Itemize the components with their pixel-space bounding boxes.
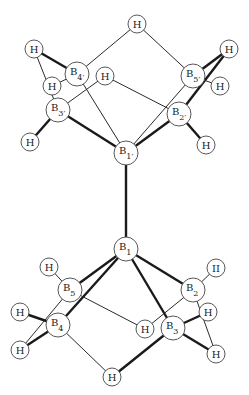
atom-label: H [212, 349, 221, 360]
atoms-layer: B1′B2′B3′B4′B5′HHHHHHHHB1B2B3B4B5HIIHHHH… [11, 15, 238, 386]
atom-Hr: H [199, 303, 217, 321]
atom-Hll: H [11, 341, 29, 359]
atom-Hrb: H [197, 136, 215, 154]
bond-B4p-B1p [77, 74, 126, 153]
atom-B3: B3 [161, 316, 185, 340]
atom-label: H [26, 137, 35, 148]
atom-Hb5: H [211, 77, 229, 95]
atom-B2p: B2′ [167, 102, 191, 126]
atom-Hul: H [40, 258, 58, 276]
atom-label: II [212, 263, 220, 274]
boron-hydride-structure-diagram: B1′B2′B3′B4′B5′HHHHHHHHB1B2B3B4B5HIIHHHH… [0, 0, 249, 395]
atom-Hb4: H [43, 77, 61, 95]
bond-Hc-B2p [105, 76, 179, 114]
atom-label: H [225, 44, 234, 55]
atom-label: H [45, 262, 54, 273]
atom-B3p: B3′ [46, 98, 70, 122]
atom-Hc: H [96, 67, 114, 85]
atom-Hlr: H [207, 345, 225, 363]
atom-B4p: B4′ [65, 62, 89, 86]
atom-B5: B5 [58, 278, 82, 302]
atom-Hlb: H [21, 133, 39, 151]
atom-Hrt: H [220, 40, 238, 58]
atom-label: H [16, 345, 25, 356]
atom-Hc2: H [136, 320, 154, 338]
atom-label: H [133, 19, 142, 30]
atom-Hbot: H [103, 368, 121, 386]
bond-B1-B3 [126, 249, 173, 328]
atom-label: H [202, 140, 211, 151]
atom-label: H [204, 307, 213, 318]
atom-B5p: B5′ [181, 64, 205, 88]
atom-Hur: II [207, 259, 225, 277]
atom-label: H [16, 307, 25, 318]
atom-Hl: H [11, 303, 29, 321]
atom-Hlt: H [25, 40, 43, 58]
atom-label: H [48, 81, 57, 92]
bond-B5-Hc2 [70, 290, 145, 329]
atom-label: H [141, 324, 150, 335]
atom-B1p: B1′ [114, 141, 138, 165]
atom-label: H [30, 44, 39, 55]
atom-Ht: H [128, 15, 146, 33]
atom-B1: B1 [114, 237, 138, 261]
atom-label: H [216, 81, 225, 92]
atom-B4: B4 [46, 313, 70, 337]
atom-label: H [101, 71, 110, 82]
atom-B2: B2 [181, 278, 205, 302]
atom-label: H [108, 372, 117, 383]
